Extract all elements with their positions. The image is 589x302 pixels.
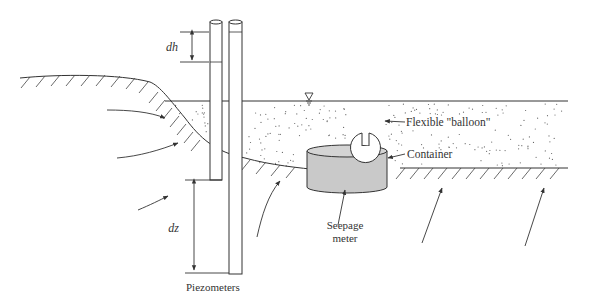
seepage-meter-label-line1: Seepage xyxy=(327,219,364,231)
piezometer-right xyxy=(229,20,242,274)
seepage-meter-label-line2: meter xyxy=(332,232,357,244)
piezometer-left xyxy=(210,20,222,180)
container-label: Container xyxy=(407,148,453,160)
flexible-balloon xyxy=(351,133,381,163)
piezometers-label: Piezometers xyxy=(186,281,240,293)
water-table-icon xyxy=(305,93,313,105)
seepage-diagram: dh dz Piezometers Flexible "balloon" Con… xyxy=(0,0,589,302)
balloon-label: Flexible "balloon" xyxy=(406,116,490,128)
dh-dimension xyxy=(180,32,209,62)
dh-label: dh xyxy=(166,40,178,54)
dz-label: dz xyxy=(168,221,179,235)
dz-dimension xyxy=(185,180,229,273)
